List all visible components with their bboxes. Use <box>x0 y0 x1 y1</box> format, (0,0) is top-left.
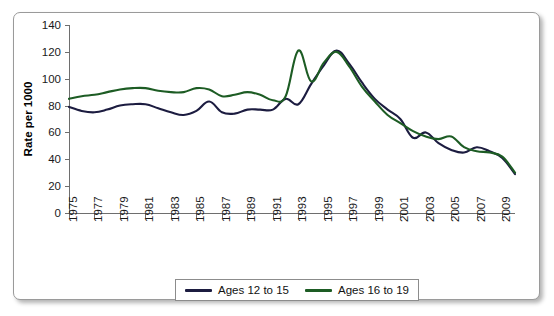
y-tick-label: 0 <box>55 207 61 219</box>
x-tick-label: 1991 <box>271 196 283 222</box>
labels-layer: 0204060801001201401975197719791981198319… <box>22 19 512 222</box>
series-line-ages-16-to-19 <box>69 50 515 172</box>
x-tick-label: 2005 <box>449 196 461 222</box>
x-tick-label: 2001 <box>398 196 410 222</box>
series-layer <box>69 50 515 174</box>
y-tick-label: 100 <box>42 73 61 85</box>
y-tick-label: 60 <box>48 126 61 138</box>
x-tick-label: 2007 <box>475 196 487 222</box>
x-tick-label: 1993 <box>296 196 308 222</box>
x-tick-label: 1997 <box>347 196 359 222</box>
y-tick-label: 120 <box>42 46 61 58</box>
x-tick-label: 1989 <box>245 196 257 222</box>
y-axis-title: Rate per 1000 <box>22 82 34 157</box>
y-tick-label: 140 <box>42 19 61 31</box>
x-tick-label: 2003 <box>424 196 436 222</box>
x-tick-label: 1983 <box>169 196 181 222</box>
x-tick-label: 1987 <box>220 196 232 222</box>
y-tick-label: 40 <box>48 153 61 165</box>
line-chart-plot: 0204060801001201401975197719791981198319… <box>14 13 541 301</box>
legend-label-ages-16-to-19: Ages 16 to 19 <box>338 284 409 296</box>
legend-entry-ages-12-to-15: Ages 12 to 15 <box>185 284 289 296</box>
chart-legend: Ages 12 to 15 Ages 16 to 19 <box>175 279 419 301</box>
x-tick-label: 1975 <box>67 196 79 222</box>
legend-swatch-ages-16-to-19 <box>305 289 332 292</box>
x-tick-label: 1979 <box>118 196 130 222</box>
legend-swatch-ages-12-to-15 <box>185 289 212 292</box>
x-tick-label: 1977 <box>92 196 104 222</box>
x-tick-label: 1985 <box>194 196 206 222</box>
legend-label-ages-12-to-15: Ages 12 to 15 <box>218 284 289 296</box>
chart-card: 0204060801001201401975197719791981198319… <box>13 12 540 300</box>
x-tick-label: 1995 <box>322 196 334 222</box>
x-tick-label: 1999 <box>373 196 385 222</box>
y-tick-label: 20 <box>48 180 61 192</box>
legend-entry-ages-16-to-19: Ages 16 to 19 <box>305 284 409 296</box>
axes-layer <box>65 25 515 218</box>
x-tick-label: 1981 <box>143 196 155 222</box>
y-tick-label: 80 <box>48 100 61 112</box>
x-tick-label: 2009 <box>500 196 512 222</box>
